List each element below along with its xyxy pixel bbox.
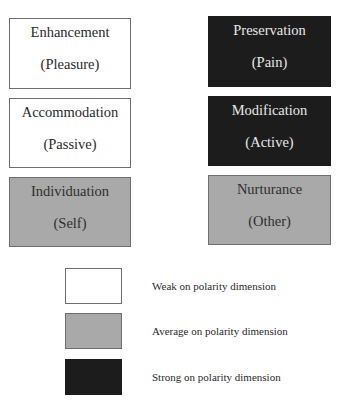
box-title: Accommodation [10, 105, 130, 120]
box-subtitle: (Active) [209, 135, 330, 150]
legend-label-average: Average on polarity dimension [152, 325, 288, 337]
legend-swatch-strong [65, 359, 122, 395]
box-title: Individuation [10, 184, 130, 199]
box-subtitle: (Self) [10, 216, 130, 231]
box-title: Enhancement [10, 25, 130, 40]
box-preservation: Preservation (Pain) [208, 16, 331, 87]
box-accommodation: Accommodation (Passive) [9, 98, 131, 168]
box-individuation: Individuation (Self) [9, 177, 131, 247]
box-title: Modification [209, 103, 330, 118]
box-modification: Modification (Active) [208, 96, 331, 166]
box-enhancement: Enhancement (Pleasure) [9, 18, 131, 89]
box-nurturance: Nurturance (Other) [208, 175, 331, 245]
legend-label-strong: Strong on polarity dimension [152, 371, 281, 383]
box-subtitle: (Passive) [10, 137, 130, 152]
legend-swatch-weak [65, 268, 122, 304]
box-title: Nurturance [209, 182, 330, 197]
legend-swatch-average [65, 313, 122, 349]
box-title: Preservation [209, 23, 330, 38]
legend-label-weak: Weak on polarity dimension [152, 280, 276, 292]
box-subtitle: (Pleasure) [10, 57, 130, 72]
box-subtitle: (Pain) [209, 55, 330, 70]
box-subtitle: (Other) [209, 214, 330, 229]
